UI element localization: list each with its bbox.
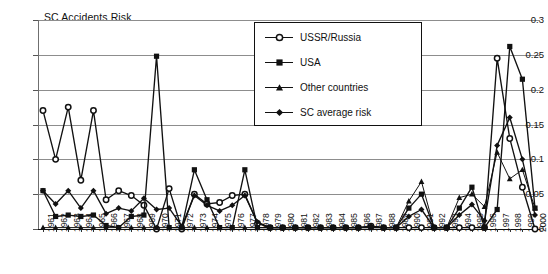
- data-point: [103, 211, 109, 217]
- data-point: [91, 108, 96, 113]
- data-point: [53, 157, 58, 162]
- data-point: [419, 192, 424, 197]
- data-point: [507, 136, 512, 141]
- data-point: [103, 197, 108, 202]
- data-point: [532, 212, 538, 218]
- data-point: [457, 225, 462, 230]
- data-point: [469, 225, 474, 230]
- data-point: [154, 54, 159, 59]
- data-point: [495, 207, 500, 212]
- data-point: [520, 77, 525, 82]
- data-point: [66, 212, 71, 217]
- data-point: [78, 214, 83, 219]
- data-point: [66, 104, 71, 109]
- data-point: [494, 142, 500, 148]
- series-line: [43, 118, 535, 228]
- data-point: [507, 115, 513, 121]
- data-point: [192, 167, 197, 172]
- series-sc-average-risk: [40, 115, 538, 231]
- legend-item-sc-average-risk[interactable]: SC average risk: [265, 104, 371, 120]
- data-point: [129, 193, 134, 198]
- filled-triangle-icon: [265, 81, 293, 93]
- data-point: [129, 214, 134, 219]
- legend-label: USA: [300, 57, 321, 68]
- data-point: [230, 193, 235, 198]
- data-point: [519, 156, 525, 162]
- data-point: [217, 208, 223, 214]
- filled-diamond-icon: [265, 106, 293, 118]
- legend-item-ussr-russia[interactable]: USSR/Russia: [265, 29, 361, 45]
- data-point: [507, 44, 512, 49]
- data-point: [457, 206, 462, 211]
- data-point: [406, 206, 411, 211]
- data-point: [116, 188, 121, 193]
- legend-label: Other countries: [300, 82, 368, 93]
- data-point: [217, 200, 222, 205]
- series-other-countries: [40, 149, 538, 230]
- data-point: [204, 197, 209, 202]
- data-point: [166, 186, 171, 191]
- data-point: [507, 176, 513, 181]
- data-point: [91, 212, 96, 217]
- data-point: [116, 205, 122, 211]
- legend-label: USSR/Russia: [300, 32, 361, 43]
- data-point: [53, 214, 58, 219]
- filled-square-icon: [265, 56, 293, 68]
- data-point: [78, 178, 83, 183]
- legend-label: SC average risk: [300, 107, 371, 118]
- data-point: [482, 225, 487, 230]
- data-point: [419, 179, 425, 184]
- data-point: [242, 167, 247, 172]
- data-point: [494, 56, 499, 61]
- data-point: [406, 225, 411, 230]
- data-point: [520, 185, 525, 190]
- chart-legend: USSR/Russia USA Other countries SC avera…: [254, 22, 422, 126]
- legend-item-usa[interactable]: USA: [265, 54, 321, 70]
- data-point: [40, 108, 45, 113]
- data-point: [419, 225, 424, 230]
- data-point: [141, 212, 146, 217]
- data-point: [469, 185, 474, 190]
- data-point: [532, 226, 537, 231]
- legend-item-other-countries[interactable]: Other countries: [265, 79, 368, 95]
- open-circle-icon: [265, 31, 293, 43]
